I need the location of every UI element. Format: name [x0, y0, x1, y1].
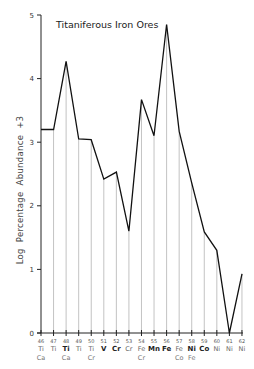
x-tick-element-label: Ni	[239, 345, 246, 353]
y-tick-label: 3	[30, 139, 34, 147]
x-tick-mass-label: 53	[126, 338, 132, 344]
x-tick-mass-label: 54	[138, 338, 144, 344]
x-tick-mass-label: 61	[226, 338, 232, 344]
axes: 012345	[30, 12, 243, 338]
x-tick-element-label: Ni	[214, 345, 221, 353]
x-tick-isobar-label: Co	[175, 354, 184, 362]
x-tick-mass-label: 57	[176, 338, 182, 344]
x-tick-element-label: Fe	[138, 345, 145, 353]
x-tick-element-label: Ti	[87, 345, 94, 353]
x-tick-element-label: Cr	[125, 345, 133, 353]
chart: 012345 Titaniferous Iron Ores Log Percen…	[0, 0, 254, 369]
x-tick-mass-label: 49	[75, 338, 81, 344]
x-tick-element-label: Fe	[162, 345, 171, 353]
x-tick-element-label: Ni	[188, 345, 196, 353]
x-tick-element-label: Ti	[50, 345, 57, 353]
x-tick-isobar-label: Ca	[62, 354, 71, 362]
y-ticks: 012345	[30, 12, 41, 338]
x-tick-mass-label: 46	[38, 338, 44, 344]
x-tick-element-label: Ti	[63, 345, 70, 353]
y-tick-label: 4	[30, 75, 35, 83]
x-tick-element-label: Fe	[175, 345, 182, 353]
x-tick-isobar-label: Cr	[138, 354, 146, 362]
x-tick-mass-label: 62	[239, 338, 245, 344]
x-tick-labels: 46TiCa47Ti48TiCa49Ti50TiCr51V52Cr53Cr54F…	[37, 338, 246, 362]
x-tick-mass-label: 60	[214, 338, 220, 344]
x-tick-isobar-label: Fe	[188, 354, 195, 362]
x-tick-element-label: Cr	[112, 345, 121, 353]
x-tick-element-label: Mn	[148, 345, 160, 353]
x-tick-isobar-label: Cr	[88, 354, 96, 362]
x-tick-mass-label: 50	[88, 338, 94, 344]
x-tick-mass-label: 55	[151, 338, 157, 344]
y-tick-label: 5	[30, 12, 34, 20]
x-tick-mass-label: 56	[163, 338, 169, 344]
y-tick-label: 2	[30, 202, 34, 210]
y-tick-label: 0	[30, 330, 34, 338]
x-tick-isobar-label: Ca	[37, 354, 46, 362]
drop-lines	[54, 25, 242, 333]
x-tick-mass-label: 48	[63, 338, 69, 344]
y-axis-label: Log Percentage Abundance +3	[15, 116, 25, 265]
chart-title: Titaniferous Iron Ores	[55, 19, 158, 30]
x-tick-mass-label: 51	[101, 338, 107, 344]
x-tick-element-label: Ti	[37, 345, 44, 353]
x-tick-mass-label: 47	[50, 338, 56, 344]
x-tick-element-label: Ni	[226, 345, 233, 353]
x-tick-element-label: Co	[199, 345, 209, 353]
x-tick-mass-label: 58	[189, 338, 195, 344]
x-tick-mass-label: 59	[201, 338, 207, 344]
x-tick-element-label: V	[101, 345, 107, 353]
x-tick-mass-label: 52	[113, 338, 119, 344]
y-tick-label: 1	[30, 266, 34, 274]
x-tick-element-label: Ti	[75, 345, 82, 353]
